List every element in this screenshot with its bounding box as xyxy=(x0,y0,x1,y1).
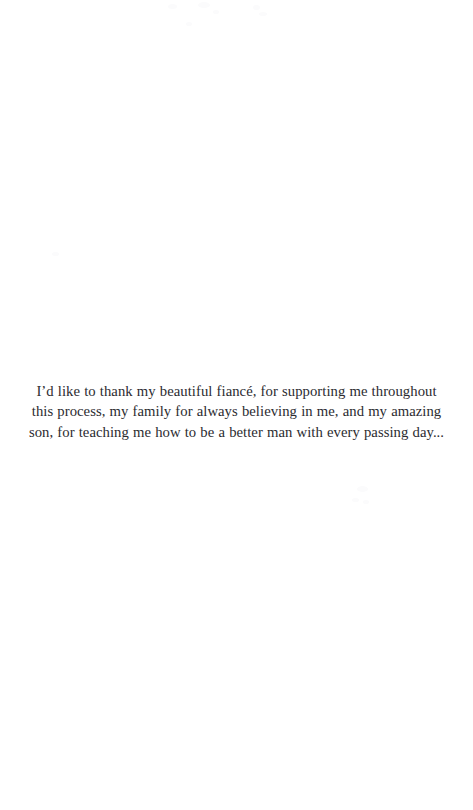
scan-artifact-speck xyxy=(198,2,210,8)
scan-artifact-speck xyxy=(186,22,192,26)
scan-artifact-speck xyxy=(213,10,219,14)
document-page: I’d like to thank my beautiful fiancé, f… xyxy=(0,0,473,810)
scan-artifact-speck xyxy=(168,4,177,9)
scan-artifact-speck xyxy=(352,498,359,502)
scan-artifact-speck xyxy=(259,12,267,16)
scan-artifact-speck xyxy=(52,252,59,256)
scan-artifact-speck xyxy=(253,5,260,10)
scan-artifact-speck xyxy=(357,486,368,492)
dedication-block: I’d like to thank my beautiful fiancé, f… xyxy=(0,381,473,442)
scan-artifact-speck xyxy=(363,500,369,504)
dedication-text: I’d like to thank my beautiful fiancé, f… xyxy=(26,381,447,442)
